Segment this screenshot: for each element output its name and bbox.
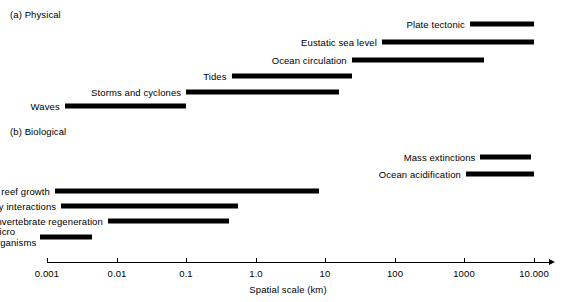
range-bar <box>382 40 534 45</box>
axis-tick-label: 0.1 <box>179 268 193 279</box>
bar-label: Ocean circulation <box>272 55 347 66</box>
range-bar <box>65 104 186 109</box>
range-bar <box>40 235 92 240</box>
range-bar <box>232 74 352 79</box>
axis-tick-label: 0.01 <box>108 268 127 279</box>
bar-row: Community interactions <box>0 199 572 213</box>
bar-row: Ocean acidification <box>0 167 572 181</box>
axis-tick-label: 10 <box>320 268 331 279</box>
bar-label: Community interactions <box>0 201 56 212</box>
bar-row: Mass extinctions <box>0 150 572 164</box>
panel-b-label: (b) Biological <box>10 126 66 137</box>
axis-line <box>47 262 550 263</box>
axis-tick <box>534 258 535 262</box>
bar-label: Eustatic sea level <box>301 37 377 48</box>
bar-row: Tides <box>0 69 572 83</box>
range-bar <box>470 22 534 27</box>
figure-canvas: (a) Physical (b) Biological Plate tecton… <box>0 0 572 302</box>
range-bar <box>108 219 230 224</box>
bar-label: Waves <box>31 101 60 112</box>
bar-row: Invertebrate regeneration <box>0 214 572 228</box>
bar-label: Mass extinctions <box>404 152 476 163</box>
bar-label: Ocean acidification <box>379 169 461 180</box>
axis-tick <box>47 258 48 262</box>
bar-row: Waves <box>0 99 572 113</box>
axis-tick-label: 0.001 <box>35 268 59 279</box>
bar-row: Eustatic sea level <box>0 35 572 49</box>
bar-row: Microorganisms <box>0 230 572 244</box>
bar-row: Ocean circulation <box>0 53 572 67</box>
range-bar <box>466 172 534 177</box>
axis-arrow-icon <box>549 259 555 265</box>
bar-row: Storms and cyclones <box>0 85 572 99</box>
range-bar <box>61 204 237 209</box>
axis-tick-label: 10.000 <box>519 268 549 279</box>
axis-tick-label: 1000 <box>453 268 475 279</box>
range-bar <box>480 155 530 160</box>
bar-label: Tides <box>203 71 226 82</box>
axis-tick-label: 100 <box>387 268 403 279</box>
bar-row: Coral reef growth <box>0 184 572 198</box>
bar-label: Coral reef growth <box>0 186 50 197</box>
range-bar <box>352 58 484 63</box>
axis-title: Spatial scale (km) <box>249 284 326 295</box>
axis-tick <box>395 258 396 262</box>
bar-label: Microorganisms <box>0 227 36 248</box>
range-bar <box>55 189 319 194</box>
axis-tick <box>325 258 326 262</box>
bar-label: Storms and cyclones <box>91 87 181 98</box>
bar-label: Plate tectonic <box>407 19 465 30</box>
bar-row: Plate tectonic <box>0 17 572 31</box>
axis-tick <box>117 258 118 262</box>
axis-tick <box>464 258 465 262</box>
axis-tick-label: 1.0 <box>249 268 263 279</box>
axis-tick <box>186 258 187 262</box>
axis-tick <box>256 258 257 262</box>
range-bar <box>186 90 339 95</box>
bar-label: Invertebrate regeneration <box>0 216 103 227</box>
